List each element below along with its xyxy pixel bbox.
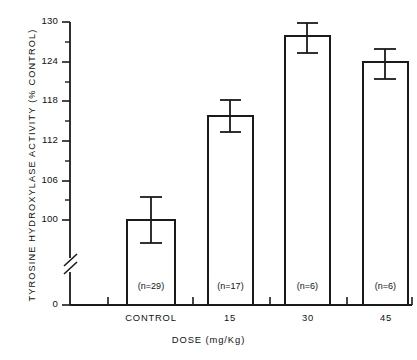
sample-size-label-45: (n=6) xyxy=(363,281,408,291)
x-tick-label-45: 45 xyxy=(361,312,411,323)
sample-size-label-30: (n=6) xyxy=(285,281,330,291)
bar-rect[interactable] xyxy=(363,62,408,305)
bar-dose-15[interactable] xyxy=(208,100,253,305)
x-tick-label-15: 15 xyxy=(205,312,255,323)
x-tick-label-30: 30 xyxy=(283,312,333,323)
bar-rect[interactable] xyxy=(285,36,330,305)
bar-rect[interactable] xyxy=(208,116,253,305)
x-axis-title: DOSE (mg/Kg) xyxy=(0,334,417,345)
sample-size-label-15: (n=17) xyxy=(208,281,253,291)
bar-dose-45[interactable] xyxy=(363,49,408,305)
figure-canvas: TYROSINE HYDROXYLASE ACTIVITY (% CONTROL… xyxy=(0,0,417,360)
x-tick-label-control: CONTROL xyxy=(110,312,192,323)
sample-size-label-control: (n=29) xyxy=(127,281,175,291)
bar-dose-30[interactable] xyxy=(285,23,330,305)
plot-area xyxy=(0,0,417,360)
